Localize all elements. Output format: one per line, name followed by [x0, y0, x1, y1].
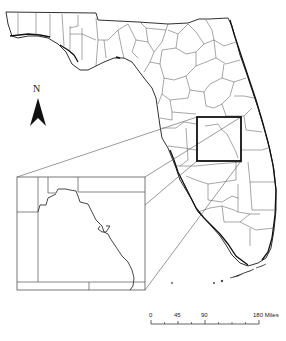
scale-label-45: 45: [174, 312, 181, 318]
scale-label-90: 90: [201, 312, 208, 318]
florida-map: [0, 0, 286, 341]
inset-map: [17, 177, 145, 290]
north-arrow-icon: [30, 98, 46, 126]
north-label: N: [33, 83, 40, 94]
scale-bar: [151, 320, 259, 324]
florida-keys: [172, 264, 267, 284]
scale-label-180: 180 Miles: [253, 312, 279, 318]
scale-label-0: 0: [149, 312, 152, 318]
